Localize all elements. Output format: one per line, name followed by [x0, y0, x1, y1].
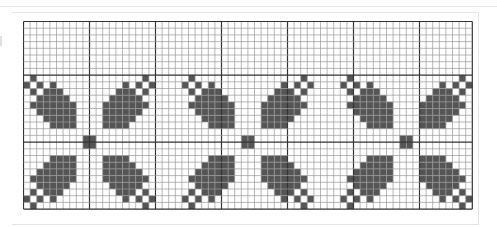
filled-stitch	[222, 182, 229, 189]
filled-stitch	[367, 196, 374, 203]
filled-stitch	[373, 122, 380, 129]
filled-stitch	[222, 156, 229, 163]
filled-stitch	[202, 109, 209, 116]
filled-stitch	[420, 115, 427, 122]
filled-stitch	[222, 115, 229, 122]
filled-stitch	[281, 169, 288, 176]
filled-stitch	[261, 156, 268, 163]
filled-stitch	[136, 95, 143, 102]
filled-stitch	[208, 122, 215, 129]
filled-stitch	[195, 182, 202, 189]
filled-stitch	[57, 156, 64, 163]
filled-stitch	[360, 182, 367, 189]
filled-stitch	[50, 102, 57, 109]
filled-stitch	[241, 142, 248, 149]
filled-stitch	[446, 189, 453, 196]
filled-stitch	[136, 196, 143, 203]
filled-stitch	[288, 169, 295, 176]
filled-stitch	[268, 122, 275, 129]
filled-stitch	[459, 75, 466, 82]
filled-stitch	[387, 156, 394, 163]
filled-stitch	[360, 115, 367, 122]
filled-stitch	[367, 156, 374, 163]
filled-stitch	[459, 102, 466, 109]
filled-stitch	[202, 162, 209, 169]
filled-stitch	[387, 102, 394, 109]
filled-stitch	[57, 95, 64, 102]
filled-stitch	[142, 102, 149, 109]
filled-stitch	[347, 176, 354, 183]
filled-stitch	[37, 196, 44, 203]
filled-stitch	[103, 102, 110, 109]
filled-stitch	[301, 189, 308, 196]
filled-stitch	[439, 189, 446, 196]
filled-stitch	[354, 95, 361, 102]
filled-stitch	[446, 115, 453, 122]
filled-stitch	[307, 196, 314, 203]
filled-stitch	[195, 169, 202, 176]
filled-stitch	[281, 102, 288, 109]
filled-stitch	[400, 135, 407, 142]
filled-stitch	[446, 95, 453, 102]
filled-stitch	[116, 169, 123, 176]
filled-stitch	[195, 176, 202, 183]
filled-stitch	[354, 82, 361, 89]
filled-stitch	[222, 95, 229, 102]
filled-stitch	[294, 169, 301, 176]
filled-stitch	[426, 176, 433, 183]
filled-stitch	[116, 122, 123, 129]
filled-stitch	[103, 156, 110, 163]
filled-stitch	[466, 82, 473, 89]
filled-stitch	[301, 89, 308, 96]
filled-stitch	[261, 162, 268, 169]
filled-stitch	[50, 156, 57, 163]
filled-stitch	[116, 189, 123, 196]
filled-stitch	[37, 102, 44, 109]
filled-stitch	[426, 156, 433, 163]
filled-stitch	[202, 95, 209, 102]
filled-stitch	[57, 176, 64, 183]
filled-stitch	[360, 95, 367, 102]
filled-stitch	[195, 109, 202, 116]
filled-stitch	[426, 169, 433, 176]
filled-stitch	[103, 122, 110, 129]
filled-stitch	[248, 142, 255, 149]
filled-stitch	[459, 89, 466, 96]
filled-stitch	[439, 162, 446, 169]
filled-stitch	[453, 102, 460, 109]
filled-stitch	[228, 176, 235, 183]
filled-stitch	[360, 169, 367, 176]
filled-stitch	[433, 189, 440, 196]
filled-stitch	[208, 89, 215, 96]
filled-stitch	[182, 196, 189, 203]
filled-stitch	[347, 75, 354, 82]
filled-stitch	[347, 89, 354, 96]
filled-stitch	[274, 182, 281, 189]
filled-stitch	[215, 156, 222, 163]
filled-stitch	[367, 182, 374, 189]
filled-stitch	[274, 95, 281, 102]
filled-stitch	[360, 89, 367, 96]
filled-stitch	[354, 196, 361, 203]
filled-stitch	[116, 182, 123, 189]
filled-stitch	[380, 95, 387, 102]
filled-stitch	[202, 169, 209, 176]
filled-stitch	[446, 169, 453, 176]
filled-stitch	[202, 102, 209, 109]
filled-stitch	[57, 189, 64, 196]
filled-stitch	[294, 182, 301, 189]
filled-stitch	[142, 189, 149, 196]
filled-stitch	[208, 176, 215, 183]
filled-stitch	[387, 176, 394, 183]
filled-stitch	[439, 176, 446, 183]
filled-stitch	[241, 135, 248, 142]
filled-stitch	[90, 142, 97, 149]
filled-stitch	[439, 196, 446, 203]
filled-stitch	[50, 196, 57, 203]
filled-stitch	[360, 109, 367, 116]
filled-stitch	[70, 102, 77, 109]
filled-stitch	[30, 176, 37, 183]
filled-stitch	[380, 102, 387, 109]
filled-stitch	[202, 115, 209, 122]
filled-stitch	[208, 156, 215, 163]
